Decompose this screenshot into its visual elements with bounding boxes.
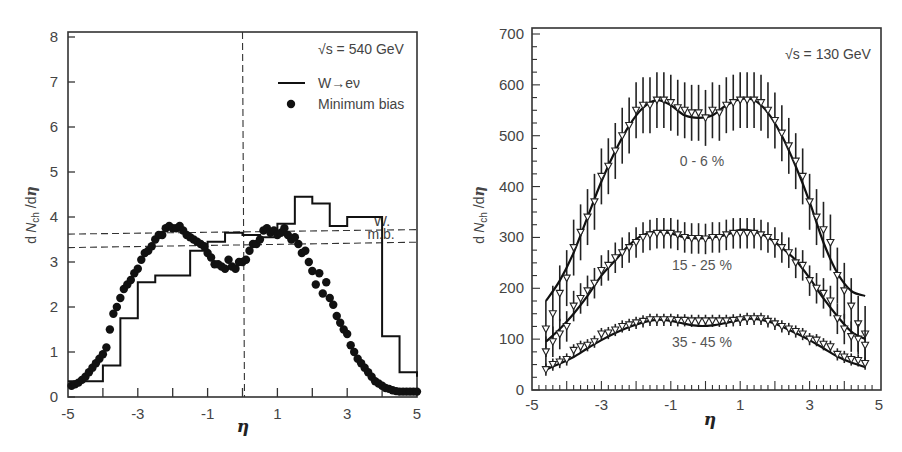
centrality-label: 0 - 6 %	[680, 153, 724, 169]
data-point-triangle	[841, 326, 848, 333]
centrality-label: 35 - 45 %	[672, 334, 732, 350]
data-point-triangle	[841, 288, 848, 295]
right-chart-panel: 0100200300400500600700-5-3-1135ηdNch /dη…	[471, 25, 883, 429]
x-tick-label: 3	[805, 396, 813, 413]
y-tick-label: 600	[499, 76, 524, 93]
data-point-triangle	[563, 323, 570, 330]
y-tick-label: 0	[50, 388, 58, 405]
data-point-triangle	[556, 290, 563, 297]
minimum-bias-point	[294, 240, 302, 248]
y-tick-label: 8	[50, 28, 58, 45]
y-axis-title: dNch /dη	[23, 186, 41, 243]
minimum-bias-point	[315, 269, 323, 277]
data-point-triangle	[584, 214, 591, 221]
data-point-triangle	[577, 344, 584, 351]
y-tick-label: 5	[50, 163, 58, 180]
data-point-triangle	[827, 240, 834, 247]
data-point-triangle	[619, 133, 626, 140]
legend-dot-icon	[287, 100, 295, 108]
minimum-bias-point	[322, 278, 330, 286]
minimum-bias-point	[102, 343, 110, 351]
minimum-bias-point	[134, 265, 142, 273]
x-tick-label: -1	[201, 405, 214, 422]
data-point-triangle	[688, 110, 695, 117]
vertical-dashed-line	[243, 32, 245, 397]
data-point-triangle	[806, 199, 813, 206]
y-tick-label: 4	[50, 208, 58, 225]
y-tick-label: 500	[499, 127, 524, 144]
data-point-triangle	[751, 230, 758, 237]
data-point-triangle	[744, 97, 751, 104]
y-axis-title: dNch /dη	[471, 186, 489, 243]
minimum-bias-point	[319, 289, 327, 297]
data-point-triangle	[688, 318, 695, 325]
y-tick-label: 0	[516, 381, 524, 398]
data-point-triangle	[695, 110, 702, 117]
y-axis-title-sub: ch	[478, 212, 489, 223]
y-axis-title-rest: /d	[23, 197, 39, 213]
x-tick-label: 1	[736, 396, 744, 413]
x-tick-label: 1	[273, 405, 281, 422]
y-tick-label: 3	[50, 253, 58, 270]
x-axis-title: η	[704, 409, 716, 429]
data-point-triangle	[702, 318, 709, 325]
y-axis-title-eta: η	[471, 186, 487, 196]
minimum-bias-point	[329, 301, 337, 309]
data-point-triangle	[640, 234, 647, 241]
minimum-bias-point	[113, 303, 121, 311]
x-tick-label: -5	[61, 405, 74, 422]
y-axis-title-sub: ch	[30, 212, 41, 223]
data-point-triangle	[778, 130, 785, 137]
x-tick-label: -3	[131, 405, 144, 422]
minimum-bias-point	[301, 247, 309, 255]
data-point-triangle	[570, 347, 577, 354]
x-tick-label: -1	[664, 396, 677, 413]
data-point-triangle	[820, 227, 827, 234]
data-point-triangle	[549, 311, 556, 318]
data-point-triangle	[542, 349, 549, 356]
figure: 012345678-5-3-1135ηdNch /dηW.m.b.√s = 54…	[0, 0, 902, 452]
series-2: 35 - 45 %	[542, 313, 868, 376]
x-tick-label: 5	[875, 396, 883, 413]
y-axis-title-rest: /d	[471, 197, 487, 213]
data-point-triangle	[556, 331, 563, 338]
minimum-bias-point	[413, 387, 421, 395]
x-tick-label: 3	[343, 405, 351, 422]
data-point-triangle	[737, 230, 744, 237]
data-point-triangle	[695, 318, 702, 325]
x-axis-title: η	[237, 416, 249, 436]
minimum-bias-point	[106, 325, 114, 333]
y-tick-label: 700	[499, 25, 524, 42]
data-point-triangle	[646, 232, 653, 239]
data-point-triangle	[848, 303, 855, 310]
y-tick-label: 1	[50, 343, 58, 360]
x-tick-label: 5	[413, 405, 421, 422]
data-point-triangle	[563, 275, 570, 282]
left-chart-panel: 012345678-5-3-1135ηdNch /dηW.m.b.√s = 54…	[23, 28, 421, 436]
y-tick-label: 300	[499, 228, 524, 245]
data-point-triangle	[660, 230, 667, 237]
mb-mean-dashed-line	[68, 242, 417, 247]
data-point-triangle	[862, 342, 869, 349]
y-tick-label: 7	[50, 73, 58, 90]
y-tick-label: 6	[50, 118, 58, 135]
y-tick-label: 200	[499, 279, 524, 296]
energy-annotation: √s = 130 GeV	[785, 46, 872, 62]
data-point-triangle	[827, 344, 834, 351]
x-tick-label: -5	[525, 396, 538, 413]
energy-annotation: √s = 540 GeV	[318, 41, 405, 57]
minimum-bias-point	[312, 280, 320, 288]
mb-line-label: m.b.	[367, 226, 394, 242]
y-tick-label: 2	[50, 298, 58, 315]
data-point-triangle	[542, 367, 549, 374]
data-point-triangle	[549, 339, 556, 346]
legend-label-wenu: W→eν	[318, 75, 360, 91]
minimum-bias-point	[305, 258, 313, 266]
data-point-triangle	[855, 336, 862, 343]
x-tick-label: -3	[595, 396, 608, 413]
data-point-triangle	[646, 102, 653, 109]
data-point-triangle	[577, 229, 584, 236]
data-point-triangle	[542, 326, 549, 333]
data-point-triangle	[633, 240, 640, 247]
minimum-bias-point	[242, 256, 250, 264]
